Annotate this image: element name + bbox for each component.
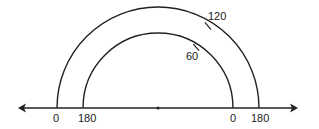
outer-arc	[57, 7, 259, 108]
diagram-canvas: 120 60 0 180 0 180	[0, 0, 319, 129]
inner-right-label: 0	[230, 112, 236, 124]
protractor-diagram: 120 60 0 180 0 180	[0, 0, 319, 129]
outer-left-label: 0	[53, 112, 59, 124]
center-point	[156, 106, 159, 109]
inner-arc	[83, 33, 233, 108]
outer-right-label: 180	[251, 112, 269, 124]
outer-tick-label: 120	[208, 10, 226, 22]
outer-arc-tick-120	[205, 22, 211, 29]
inner-tick-label: 60	[186, 50, 198, 62]
inner-left-label: 180	[78, 112, 96, 124]
